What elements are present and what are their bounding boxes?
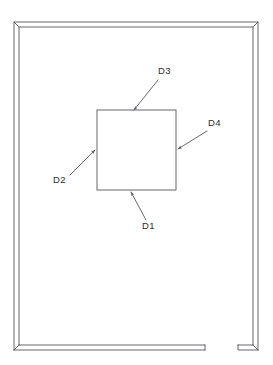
dimension-label-d1: D1 bbox=[142, 220, 155, 231]
mitre-line-bottom-right bbox=[253, 345, 258, 350]
leader-line-d1 bbox=[131, 192, 146, 220]
drawing-canvas: D1 D2 D3 D4 bbox=[0, 0, 273, 365]
inner-panel bbox=[97, 110, 176, 190]
dimension-labels: D1 D2 D3 D4 bbox=[53, 65, 221, 231]
leader-line-d3 bbox=[134, 80, 158, 110]
frame-outer-outline bbox=[14, 22, 258, 350]
dimension-label-d2: D2 bbox=[53, 174, 66, 185]
mitre-line-bottom-left bbox=[14, 345, 19, 350]
dimension-leaders bbox=[70, 80, 207, 220]
leader-line-d4 bbox=[178, 131, 207, 149]
leader-line-d2 bbox=[70, 150, 95, 175]
mitre-line-top-left bbox=[14, 22, 19, 27]
frame-inner-profile-outline bbox=[19, 27, 253, 345]
frame-technical-drawing: D1 D2 D3 D4 bbox=[0, 0, 273, 365]
dimension-label-d3: D3 bbox=[158, 65, 171, 76]
dimension-label-d4: D4 bbox=[208, 117, 221, 128]
outer-frame bbox=[14, 22, 258, 350]
mitre-line-top-right bbox=[253, 22, 258, 27]
